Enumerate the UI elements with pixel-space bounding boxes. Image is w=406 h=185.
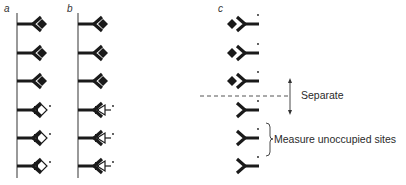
panel-c: c Separate Measure unoccupied sites	[200, 3, 396, 173]
brace-icon	[266, 123, 273, 156]
diagram-canvas: a b	[0, 0, 406, 185]
bound-unlabeled-antigen-row	[78, 17, 108, 88]
panel-label-b: b	[67, 3, 73, 14]
antigen-bound-labeled-antibody-row	[227, 14, 259, 88]
separate-label: Separate	[301, 89, 344, 101]
panel-b: b	[67, 3, 114, 178]
measure-unoccupied-label: Measure unoccupied sites	[274, 133, 396, 145]
bound-labeled-hapten-row	[78, 103, 114, 173]
panel-a: a	[4, 3, 51, 178]
panel-label-a: a	[4, 3, 10, 14]
unoccupied-labeled-antibody-row	[237, 100, 259, 173]
panel-label-c: c	[218, 3, 223, 14]
bound-labeled-antigen-row	[17, 103, 51, 173]
bound-unlabeled-antigen-row	[17, 17, 47, 88]
separate-double-arrow	[288, 78, 292, 115]
